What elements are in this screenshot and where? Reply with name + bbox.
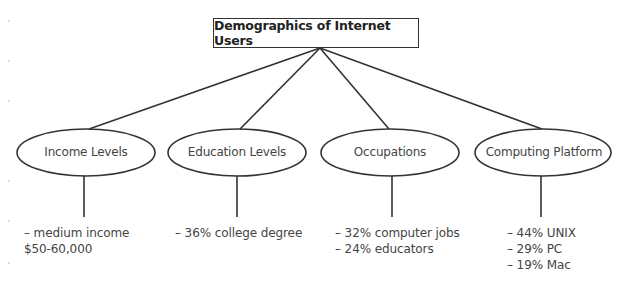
occupation-items: – 32% computer jobs – 24% educators xyxy=(335,225,460,257)
margin-mark xyxy=(8,20,10,22)
list-item: – medium income xyxy=(24,225,129,241)
node-occupations: Occupations xyxy=(321,145,459,159)
node-income-levels: Income Levels xyxy=(17,145,155,159)
education-items: – 36% college degree xyxy=(175,225,302,241)
margin-mark xyxy=(8,262,10,264)
platform-items: – 44% UNIX – 29% PC – 19% Mac xyxy=(507,225,576,273)
list-item: – 29% PC xyxy=(507,241,576,257)
income-items: – medium income $50-60,000 xyxy=(24,225,129,257)
list-item: – 32% computer jobs xyxy=(335,225,460,241)
root-node-title: Demographics of Internet Users xyxy=(213,18,419,48)
margin-mark xyxy=(8,180,10,182)
list-item: $50-60,000 xyxy=(24,241,129,257)
node-computing-platform: Computing Platform xyxy=(475,145,613,159)
list-item: – 36% college degree xyxy=(175,225,302,241)
margin-mark xyxy=(8,220,10,222)
list-item: – 19% Mac xyxy=(507,257,576,273)
list-item: – 24% educators xyxy=(335,241,460,257)
list-item: – 44% UNIX xyxy=(507,225,576,241)
margin-mark xyxy=(8,100,10,102)
node-education-levels: Education Levels xyxy=(168,145,306,159)
margin-mark xyxy=(8,60,10,62)
